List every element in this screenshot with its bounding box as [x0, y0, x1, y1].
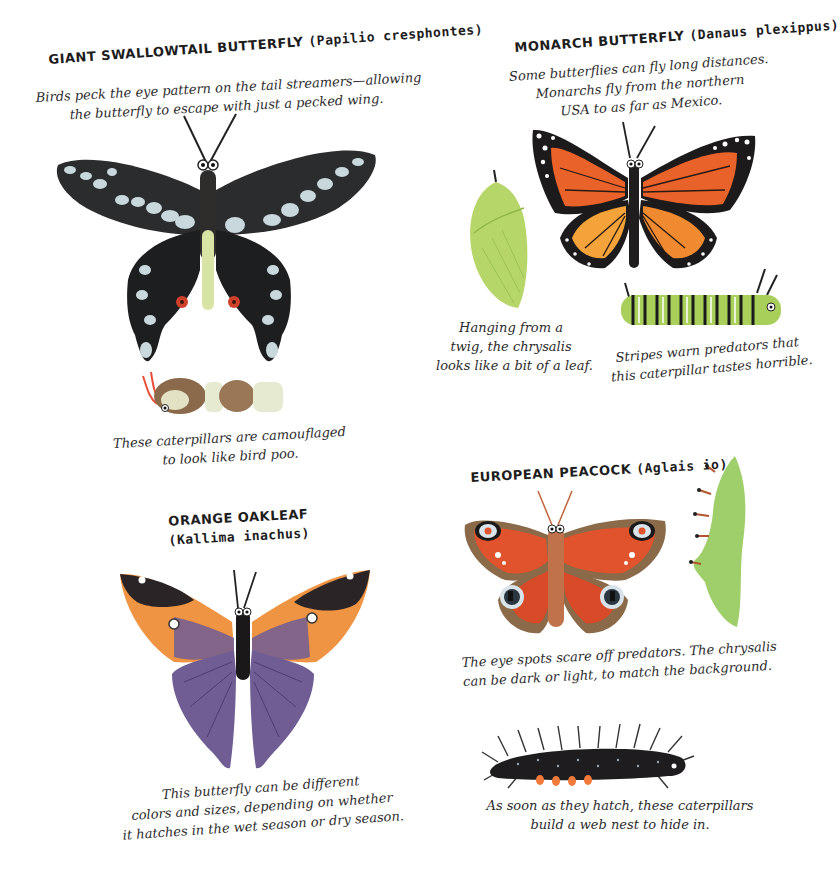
orange-oakleaf-latin-name: (Kallima inachus): [168, 525, 310, 547]
orange-oakleaf-title: ORANGE OAKLEAF (Kallima inachus): [167, 506, 310, 547]
caption-line: As soon as they hatch, these caterpillar…: [470, 796, 770, 815]
orange-oakleaf-common-name: ORANGE OAKLEAF: [167, 506, 309, 528]
monarch-latin-name: (Danaus plexippus): [689, 17, 840, 42]
giant-swallowtail-caterpillar-illustration: [135, 368, 295, 418]
giant-swallowtail-common-name: GIANT SWALLOWTAIL BUTTERFLY: [48, 34, 304, 67]
european-peacock-chrysalis-illustration: [685, 452, 755, 632]
giant-swallowtail-title: GIANT SWALLOWTAIL BUTTERFLY (Papilio cre…: [48, 22, 483, 67]
caption-line: looks like a bit of a leaf.: [436, 356, 586, 375]
monarch-description: Some butterflies can fly long distances.…: [503, 49, 776, 125]
giant-swallowtail-latin-name: (Papilio cresphontes): [308, 22, 483, 49]
caption-line: build a web nest to hide in.: [470, 815, 770, 834]
monarch-caterpillar-caption: Stripes warn predators that this caterpi…: [609, 332, 808, 387]
european-peacock-caption: The eye spots scare off predators. The c…: [461, 637, 773, 691]
monarch-title: MONARCH BUTTERFLY (Danaus plexippus): [514, 17, 840, 55]
monarch-chrysalis-caption: Hanging from a twig, the chrysalis looks…: [436, 318, 586, 375]
european-peacock-caterpillar-illustration: [478, 722, 698, 790]
giant-swallowtail-illustration: [50, 110, 390, 370]
monarch-butterfly-illustration: [525, 118, 760, 278]
european-peacock-caterpillar-caption: As soon as they hatch, these caterpillar…: [470, 796, 770, 834]
caption-line: Hanging from a: [436, 318, 586, 337]
orange-oakleaf-caption: This butterfly can be different colors a…: [110, 768, 413, 846]
monarch-common-name: MONARCH BUTTERFLY: [514, 28, 685, 55]
caption-line: twig, the chrysalis: [436, 337, 586, 356]
orange-oakleaf-illustration: [112, 562, 377, 772]
european-peacock-illustration: [460, 485, 675, 640]
monarch-caterpillar-illustration: [615, 265, 790, 335]
european-peacock-common-name: EUROPEAN PEACOCK: [470, 462, 632, 485]
giant-swallowtail-caterpillar-caption: These caterpillars are camouflaged to lo…: [99, 421, 361, 473]
